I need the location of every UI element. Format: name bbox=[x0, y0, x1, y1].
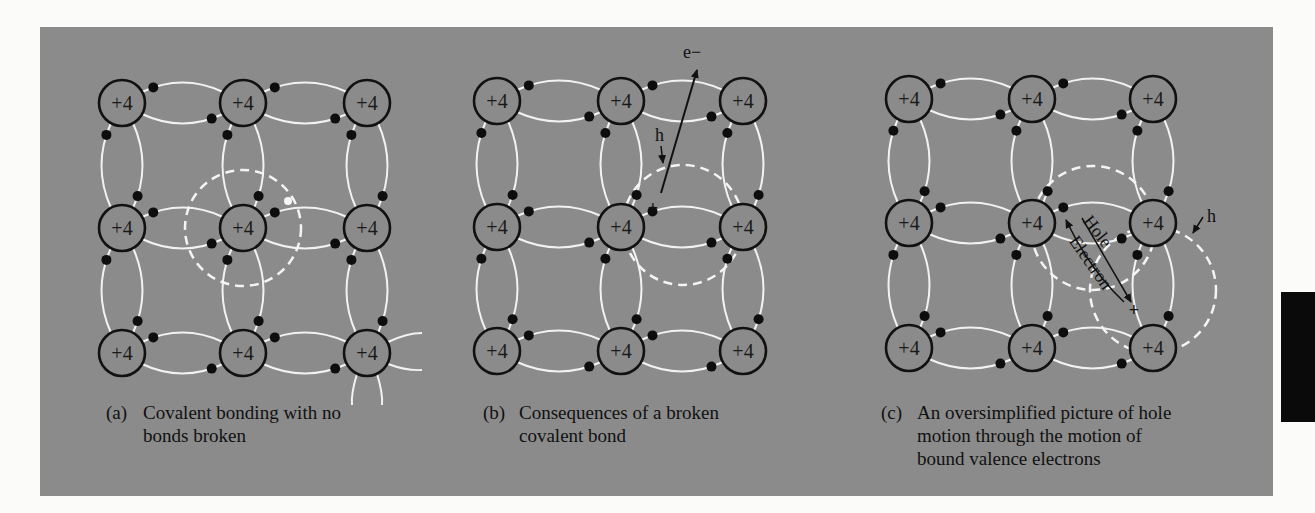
caption-tag: (a) bbox=[106, 401, 127, 424]
valence-electron-dot bbox=[584, 362, 594, 372]
atom-core: +4 bbox=[720, 78, 766, 124]
valence-electron-dot bbox=[707, 112, 717, 122]
valence-electron-dot bbox=[754, 314, 764, 324]
atom-charge-label: +4 bbox=[111, 217, 132, 239]
valence-electron-dot bbox=[133, 316, 143, 326]
valence-electron-dot bbox=[101, 130, 111, 140]
valence-electron-dot bbox=[707, 238, 717, 248]
atom-core: +4 bbox=[474, 78, 520, 124]
valence-electron-dot bbox=[476, 128, 486, 138]
valence-electron-dot bbox=[1043, 186, 1053, 196]
valence-electron-dot bbox=[1132, 250, 1142, 260]
valence-electron-dot bbox=[101, 255, 111, 265]
atom-charge-label: +4 bbox=[610, 340, 631, 362]
atom-charge-label: +4 bbox=[486, 90, 507, 112]
atom-charge-label: +4 bbox=[486, 340, 507, 362]
atom-core: +4 bbox=[99, 80, 145, 126]
valence-electron-dot bbox=[148, 207, 158, 217]
atom-core: +4 bbox=[720, 328, 766, 374]
caption-tag: (b) bbox=[483, 401, 505, 424]
valence-electron-dot bbox=[270, 82, 280, 92]
valence-electron-dot bbox=[936, 202, 946, 212]
valence-electron-dot bbox=[920, 311, 930, 321]
atom-charge-label: +4 bbox=[356, 92, 377, 114]
valence-electron-dot bbox=[222, 255, 232, 265]
atom-charge-label: +4 bbox=[111, 92, 132, 114]
panel-c-hole-motion: +4+4+4+4+4+4+4+4+4+HoleElectronh bbox=[886, 76, 1216, 371]
atom-charge-label: +4 bbox=[232, 342, 253, 364]
valence-electron-dot bbox=[722, 254, 732, 264]
panel-b-broken-bond: +4+4+4+4+4+4+4+4+4+e−h bbox=[474, 42, 766, 374]
panel-a-covalent-bonding: +4+4+4+4+4+4+4+4+4 bbox=[99, 80, 422, 405]
valence-electron-dot bbox=[330, 239, 340, 249]
caption-line-2: bonds broken bbox=[143, 424, 246, 447]
valence-electron-dot bbox=[600, 128, 610, 138]
valence-electron-dot bbox=[1058, 78, 1068, 88]
valence-electron-dot bbox=[648, 80, 658, 90]
atom-core: +4 bbox=[598, 328, 644, 374]
valence-electron-dot bbox=[936, 327, 946, 337]
atom-core: +4 bbox=[1009, 200, 1055, 246]
atom-charge-label: +4 bbox=[1021, 212, 1042, 234]
atom-charge-label: +4 bbox=[732, 340, 753, 362]
caption-line-2: motion through the motion of bbox=[917, 424, 1142, 447]
atom-charge-label: +4 bbox=[898, 88, 919, 110]
valence-electron-dot bbox=[508, 190, 518, 200]
atom-charge-label: +4 bbox=[732, 216, 753, 238]
valence-electron-dot bbox=[524, 80, 534, 90]
caption-line-1: An oversimplified picture of hole bbox=[917, 401, 1171, 424]
valence-electron-dot bbox=[207, 364, 217, 374]
atom-charge-label: +4 bbox=[1142, 88, 1163, 110]
hole-label: h bbox=[655, 125, 664, 145]
valence-electron-dot bbox=[378, 316, 388, 326]
valence-electron-dot bbox=[346, 130, 356, 140]
valence-electron-dot bbox=[995, 110, 1005, 120]
valence-electron-dot bbox=[148, 82, 158, 92]
atom-charge-label: +4 bbox=[356, 217, 377, 239]
valence-electron-dot bbox=[1011, 126, 1021, 136]
valence-electron-dot bbox=[1164, 311, 1174, 321]
atom-core: +4 bbox=[886, 325, 932, 371]
valence-electron-dot bbox=[270, 332, 280, 342]
atom-charge-label: +4 bbox=[111, 342, 132, 364]
atom-core: +4 bbox=[598, 204, 644, 250]
atom-core: +4 bbox=[220, 205, 266, 251]
valence-electron-dot bbox=[1058, 327, 1068, 337]
valence-electron-dot bbox=[524, 330, 534, 340]
valence-electron-dot bbox=[632, 314, 642, 324]
hole-plus-sign: + bbox=[1129, 300, 1139, 320]
atom-core: +4 bbox=[1130, 325, 1176, 371]
atom-charge-label: +4 bbox=[898, 212, 919, 234]
atom-core: +4 bbox=[99, 330, 145, 376]
hole-pointer-arrow-icon bbox=[1193, 217, 1203, 233]
valence-electron-dot bbox=[648, 330, 658, 340]
free-electron-arrow-icon bbox=[661, 70, 697, 193]
valence-electron-dot bbox=[1117, 359, 1127, 369]
valence-electron-dot bbox=[330, 114, 340, 124]
atom-core: +4 bbox=[99, 205, 145, 251]
atom-core: +4 bbox=[344, 330, 390, 376]
atom-core: +4 bbox=[474, 328, 520, 374]
valence-electron-dot bbox=[920, 186, 930, 196]
caption-line-3: bound valence electrons bbox=[917, 447, 1101, 470]
atom-charge-label: +4 bbox=[1021, 88, 1042, 110]
valence-electron-dot bbox=[600, 254, 610, 264]
valence-electron-dot bbox=[888, 250, 898, 260]
valence-electron-dot bbox=[1058, 202, 1068, 212]
atom-core: +4 bbox=[598, 78, 644, 124]
valence-electron-dot bbox=[995, 359, 1005, 369]
atom-core: +4 bbox=[886, 200, 932, 246]
valence-electron-dot bbox=[995, 234, 1005, 244]
valence-electron-dot bbox=[1164, 186, 1174, 196]
valence-electron-dot bbox=[888, 126, 898, 136]
atom-charge-label: +4 bbox=[732, 90, 753, 112]
atom-charge-label: +4 bbox=[1021, 337, 1042, 359]
valence-electron-dot bbox=[207, 239, 217, 249]
valence-electron-dot bbox=[222, 130, 232, 140]
atom-core: +4 bbox=[1130, 200, 1176, 246]
valence-electron-dot bbox=[584, 112, 594, 122]
atom-core: +4 bbox=[220, 330, 266, 376]
atom-charge-label: +4 bbox=[1142, 337, 1163, 359]
valence-electron-dot bbox=[508, 314, 518, 324]
valence-electron-dot bbox=[330, 364, 340, 374]
